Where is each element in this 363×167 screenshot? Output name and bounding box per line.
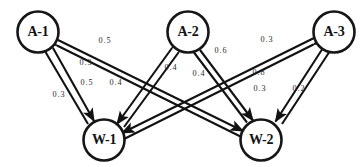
node-w2[interactable]: W-2 — [241, 120, 282, 161]
edge-weight-a1-w1: 0.5 — [81, 78, 94, 87]
node-a1[interactable]: A-1 — [18, 12, 59, 53]
node-w1[interactable]: W-1 — [84, 120, 125, 161]
node-w2-label: W-2 — [249, 132, 274, 147]
edge-weight-a2-w1: 0.4 — [110, 78, 123, 87]
edge-a3-w2-b — [282, 53, 329, 125]
edge-weight-a2-w2: 0.6 — [215, 46, 228, 55]
edge-weight-a3-w2: 0.2 — [293, 84, 306, 93]
edge-weight-w2-a1-upper: 0.3 — [80, 58, 93, 67]
node-a1-label: A-1 — [28, 24, 49, 39]
graph-canvas: A-1 A-2 A-3 W-1 W-2 0.5 0.3 0 — [0, 0, 363, 167]
edge-weight-w1-a1: 0.5 — [99, 36, 112, 45]
edge-weight-w1-a3-b: 0.8 — [253, 68, 266, 77]
node-a2-label: A-2 — [178, 24, 199, 39]
edge-weight-w2-a2: 0.4 — [193, 69, 206, 78]
node-a3-label: A-3 — [324, 24, 345, 39]
node-a3[interactable]: A-3 — [314, 12, 355, 53]
edge-weight-w1-a3: 0.3 — [261, 35, 274, 44]
node-a2[interactable]: A-2 — [168, 12, 209, 53]
edge-a2-w2-b — [194, 53, 247, 123]
node-w1-label: W-1 — [92, 132, 117, 147]
edge-weight-w2-a1-lower: 0.3 — [53, 90, 66, 99]
edge-weight-w1-a2: 0.4 — [165, 63, 178, 72]
graph-diagram: A-1 A-2 A-3 W-1 W-2 0.5 0.3 0 — [0, 0, 363, 167]
edge-a2-w2-a — [200, 50, 253, 121]
edge-weight-w2-a3: 0.3 — [254, 84, 267, 93]
